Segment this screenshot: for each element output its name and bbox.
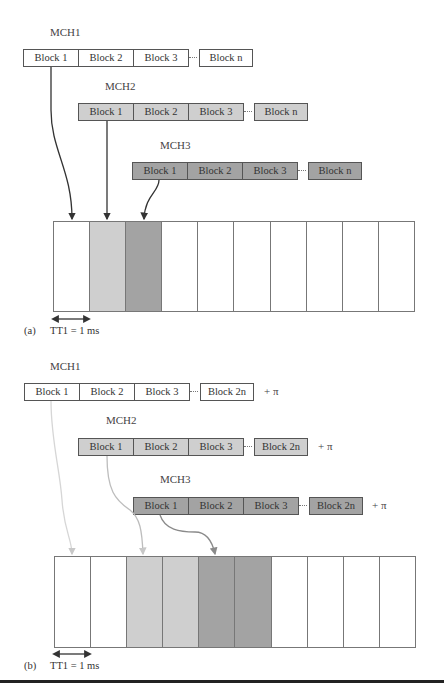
arrow-mch1 [51,401,72,554]
arrow-mch2 [107,456,143,554]
mapping-arrows-b [0,0,444,692]
tti-label-b: TT1 = 1 ms [50,660,99,671]
arrow-mch3 [160,515,215,554]
figure-bottom-rule [0,680,444,683]
panel-b-label: (b) [24,660,36,671]
